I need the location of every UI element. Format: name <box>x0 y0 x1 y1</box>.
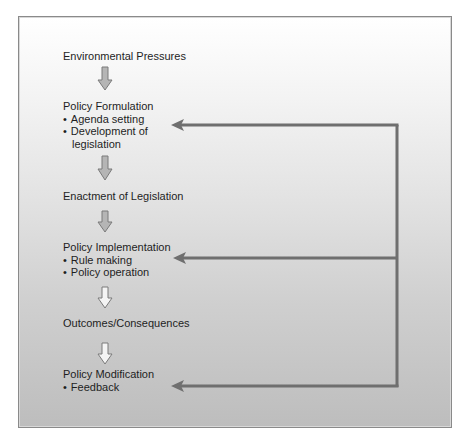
arrows-layer <box>0 0 470 445</box>
down-arrow-icon <box>98 343 112 364</box>
down-arrow-icon <box>98 287 112 308</box>
feedback-loop-arrows <box>171 119 399 392</box>
down-arrow-icon <box>98 211 112 232</box>
down-arrow-icon <box>98 156 112 180</box>
down-arrow-icon <box>98 67 112 90</box>
